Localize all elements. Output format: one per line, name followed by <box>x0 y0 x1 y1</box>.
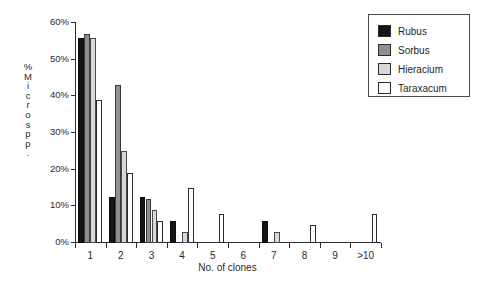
bar-sorbus-1 <box>84 34 90 243</box>
bar-hieracium-7 <box>274 232 280 243</box>
x-axis-title: No. of clones <box>75 262 380 273</box>
x-tick-label: 1 <box>75 250 106 261</box>
y-axis-title: % M i c r o s p p . <box>18 62 38 158</box>
bar-rubus-1 <box>78 38 84 243</box>
bar-taraxacum-gt10 <box>372 214 378 243</box>
bar-sorbus-2 <box>115 85 121 243</box>
x-tick-mark <box>320 243 321 248</box>
bar-rubus-4 <box>170 221 176 243</box>
bar-rubus-7 <box>262 221 268 243</box>
x-tick-label: 2 <box>106 250 137 261</box>
legend-label: Taraxacum <box>398 83 447 94</box>
legend-item-taraxacum: Taraxacum <box>378 79 469 97</box>
y-tick-mark <box>71 95 75 96</box>
x-tick-mark <box>106 243 107 248</box>
bar-taraxacum-5 <box>219 214 225 243</box>
legend-item-hieracium: Hieracium <box>378 60 469 78</box>
y-tick-mark <box>71 132 75 133</box>
legend-item-sorbus: Sorbus <box>378 41 469 59</box>
bar-hieracium-1 <box>90 38 96 243</box>
plot-area: 0%10%20%30%40%50%60% 123456789>10 <box>75 22 380 242</box>
x-tick-label: >10 <box>350 250 381 261</box>
y-tick-label: 60% <box>50 16 69 27</box>
bar-taraxacum-3 <box>157 221 163 243</box>
legend-label: Rubus <box>398 26 427 37</box>
y-tick-mark <box>71 22 75 23</box>
x-tick-mark <box>167 243 168 248</box>
y-tick-label: 30% <box>50 126 69 137</box>
legend-swatch-icon <box>378 82 391 94</box>
y-tick-mark <box>71 205 75 206</box>
y-tick-label: 20% <box>50 163 69 174</box>
bar-chart-figure: % M i c r o s p p . 0%10%20%30%40%50%60%… <box>0 0 489 286</box>
x-tick-mark <box>228 243 229 248</box>
bar-rubus-3 <box>140 197 146 243</box>
x-tick-mark <box>350 243 351 248</box>
x-tick-label: 6 <box>228 250 259 261</box>
y-tick-label: 40% <box>50 89 69 100</box>
bar-sorbus-3 <box>146 199 152 243</box>
y-tick-label: 0% <box>55 236 69 247</box>
bar-hieracium-2 <box>121 151 127 243</box>
bar-taraxacum-4 <box>188 188 194 243</box>
bar-hieracium-3 <box>152 210 158 243</box>
legend-swatch-icon <box>378 44 391 56</box>
x-tick-mark <box>381 243 382 248</box>
legend-label: Hieracium <box>398 64 443 75</box>
y-tick-label: 50% <box>50 53 69 64</box>
x-tick-mark <box>197 243 198 248</box>
x-tick-mark <box>259 243 260 248</box>
x-tick-label: 9 <box>320 250 351 261</box>
y-tick-mark <box>71 59 75 60</box>
x-tick-mark <box>289 243 290 248</box>
x-tick-mark <box>75 243 76 248</box>
legend-label: Sorbus <box>398 45 430 56</box>
y-tick-label: 10% <box>50 199 69 210</box>
legend-swatch-icon <box>378 25 391 37</box>
bars-layer <box>75 22 381 243</box>
x-tick-label: 4 <box>167 250 198 261</box>
bar-taraxacum-2 <box>127 173 133 243</box>
x-tick-label: 7 <box>259 250 290 261</box>
bar-rubus-2 <box>109 197 115 243</box>
legend-swatch-icon <box>378 63 391 75</box>
x-tick-label: 3 <box>136 250 167 261</box>
x-tick-label: 5 <box>197 250 228 261</box>
bar-taraxacum-1 <box>96 100 102 243</box>
bar-taraxacum-8 <box>310 225 316 243</box>
y-tick-mark <box>71 169 75 170</box>
legend-item-rubus: Rubus <box>378 22 469 40</box>
bar-hieracium-4 <box>182 232 188 243</box>
legend: RubusSorbusHieraciumTaraxacum <box>368 14 470 97</box>
x-tick-label: 8 <box>289 250 320 261</box>
x-tick-mark <box>136 243 137 248</box>
